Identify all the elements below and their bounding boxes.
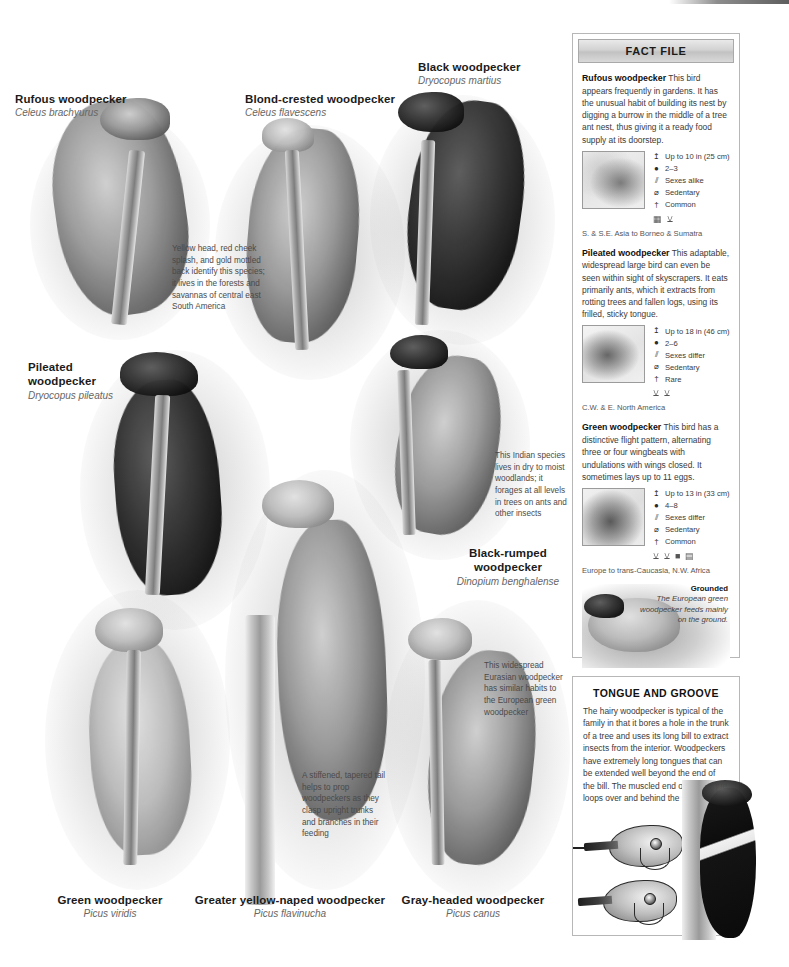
tree-icon: ⚺ [653, 551, 659, 562]
fact-entry-description: This adaptable, widespread large bird ca… [582, 248, 729, 320]
annotation-blond-note: Yellow head, red cheek splash, and gold … [172, 243, 268, 313]
range-text: S. & S.E. Asia to Borneo & Sumatra [582, 229, 730, 238]
species-scientific-name: Celeus brachyurus [15, 107, 127, 120]
urban-icon: ▦ [653, 214, 662, 225]
bird-illustration-pileated-head [120, 352, 198, 396]
range-text: Europe to trans-Caucasia, N.W. Africa [582, 566, 730, 575]
caption-green: Green woodpecker Picus viridis [40, 893, 180, 921]
eggs-icon: ● [652, 500, 661, 512]
stat-migration-value: Sedentary [665, 524, 700, 535]
stat-migration: ⌀ Sedentary [652, 187, 730, 199]
ground-icon: ▤ [685, 551, 694, 562]
fact-file-body: Rufous woodpecker This bird appears freq… [573, 63, 739, 674]
fact-entry-name: Rufous woodpecker [582, 73, 666, 83]
distribution-map-europe [582, 488, 645, 546]
annotation-blackrumped-note: This Indian species lives in dry to mois… [495, 450, 569, 520]
stat-status: † Rare [652, 373, 730, 385]
bird-illustration-blond-crest [262, 118, 314, 152]
species-scientific-name: Dryocopus pileatus [28, 390, 113, 403]
fact-entry-text: Pileated woodpecker This adaptable, wide… [582, 247, 730, 321]
distribution-map-asia [582, 151, 645, 209]
stat-eggs: ● 4–8 [652, 500, 730, 512]
caption-greater-yellow-naped: Greater yellow-naped woodpecker Picus fl… [190, 893, 390, 921]
sexes-icon: ⫽ [652, 512, 661, 524]
branch-grayheaded [428, 660, 445, 865]
fact-file-title: FACT FILE [625, 45, 686, 57]
sexes-icon: ⫽ [652, 349, 661, 361]
stat-sexes: ⫽ Sexes alike [652, 175, 730, 187]
species-scientific-name: Celeus flavescens [245, 107, 395, 120]
fact-file-photo: Grounded The European green woodpecker f… [582, 584, 730, 668]
stat-migration-value: Sedentary [665, 362, 700, 373]
stat-eggs: ● 2–3 [652, 163, 730, 175]
tongue-loop-icon [640, 848, 670, 870]
trunk-greateryellow [245, 615, 275, 905]
species-common-name: Black-rumped woodpecker [443, 546, 573, 575]
skull-diagram-extended [609, 825, 683, 867]
caption-black-rumped: Black-rumped woodpecker Dinopium benghal… [443, 546, 573, 588]
migration-icon: ⌀ [652, 524, 661, 536]
stat-status-value: Rare [665, 374, 681, 385]
stat-sexes: ⫽ Sexes differ [652, 512, 730, 524]
caption-blond-crested: Blond-crested woodpecker Celeus flavesce… [245, 92, 395, 120]
sexes-icon: ⫽ [652, 175, 661, 187]
species-scientific-name: Dinopium benghalense [443, 576, 573, 589]
page-edge-bar [669, 0, 789, 4]
migration-icon: ⌀ [652, 361, 661, 373]
stat-status-value: Common [665, 199, 696, 210]
stat-migration-value: Sedentary [665, 187, 700, 198]
photo-caption: Grounded The European green woodpecker f… [636, 584, 728, 626]
stat-eggs-value: 2–3 [665, 163, 678, 174]
status-icon: † [652, 536, 661, 548]
stat-eggs-value: 4–8 [665, 500, 678, 511]
stat-migration: ⌀ Sedentary [652, 524, 730, 536]
stat-status: † Common [652, 536, 730, 548]
fact-entry-name: Pileated woodpecker [582, 248, 670, 258]
stat-sexes-value: Sexes differ [665, 350, 705, 361]
grass-icon: ■ [675, 551, 680, 562]
tree-icon: ⚺ [653, 388, 659, 399]
habitat-icons: ⚺ ⚺ [652, 388, 730, 399]
bird-illustration-black-head [398, 92, 464, 132]
distribution-map-north-america [582, 325, 645, 383]
species-common-name: Pileated woodpecker [28, 360, 113, 389]
bird-illustration-green-head [95, 608, 163, 652]
stat-size-value: Up to 10 in (25 cm) [665, 151, 730, 162]
fact-entry-rufous: Rufous woodpecker This bird appears freq… [582, 72, 730, 238]
status-icon: † [652, 373, 661, 385]
caption-black: Black woodpecker Dryocopus martius [418, 60, 521, 88]
size-icon: ↥ [652, 325, 661, 337]
tree-icon: ⚺ [664, 388, 670, 399]
photo-caption-title: Grounded [636, 584, 728, 595]
migration-icon: ⌀ [652, 187, 661, 199]
species-scientific-name: Picus viridis [40, 908, 180, 921]
species-scientific-name: Picus canus [388, 908, 558, 921]
bird-illustration-hairy-woodpecker [700, 788, 756, 938]
stat-size-value: Up to 18 in (46 cm) [665, 326, 730, 337]
eggs-icon: ● [652, 337, 661, 349]
photo-caption-text: The European green woodpecker feeds main… [640, 594, 728, 624]
range-text: C.W. & E. North America [582, 403, 730, 412]
bird-illustration-hairy-head [702, 780, 752, 806]
species-common-name: Gray-headed woodpecker [388, 893, 558, 907]
habitat-icons: ▦ ⚺ [652, 214, 730, 225]
stat-size: ↥ Up to 13 in (33 cm) [652, 488, 730, 500]
tongue-panel-title: TONGUE AND GROOVE [583, 687, 729, 699]
fact-entry-text: Rufous woodpecker This bird appears freq… [582, 72, 730, 146]
bird-illustration-grayheaded-head [408, 618, 472, 660]
stat-migration: ⌀ Sedentary [652, 361, 730, 373]
bill-icon [578, 896, 612, 906]
stat-eggs: ● 2–6 [652, 337, 730, 349]
tongue-loop-icon [634, 903, 664, 925]
fact-entry-name: Green woodpecker [582, 422, 661, 432]
fact-entry-pileated: Pileated woodpecker This adaptable, wide… [582, 247, 730, 413]
stat-sexes-value: Sexes alike [665, 175, 704, 186]
size-icon: ↥ [652, 488, 661, 500]
eggs-icon: ● [652, 163, 661, 175]
species-common-name: Greater yellow-naped woodpecker [190, 893, 390, 907]
status-icon: † [652, 199, 661, 211]
fact-entry-green: Green woodpecker This bird has a distinc… [582, 421, 730, 575]
fact-file-panel: FACT FILE Rufous woodpecker This bird ap… [572, 33, 740, 658]
fact-stats: ↥ Up to 10 in (25 cm) ● 2–3 ⫽ Sexes alik… [652, 151, 730, 225]
species-common-name: Rufous woodpecker [15, 92, 127, 106]
